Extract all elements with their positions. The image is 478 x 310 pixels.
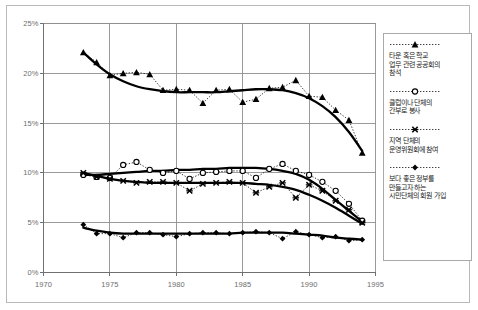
data-point-open-circle [307,172,312,177]
data-point-filled-triangle [359,150,366,156]
data-point-open-circle [214,169,219,174]
data-point-x-cross [279,180,286,185]
data-point-filled-diamond [120,235,126,241]
data-point-open-circle [121,162,126,167]
data-point-filled-triangle [279,84,286,90]
data-point-x-cross [253,190,260,195]
data-point-open-circle [267,166,272,171]
data-point-filled-diamond [266,230,272,236]
legend-marker-filled-triangle-icon [389,40,466,49]
data-point-x-cross [213,180,220,185]
series-observed-dotted-line [83,52,362,153]
data-point-open-circle [280,161,285,166]
data-point-filled-triangle [173,86,180,92]
data-point-filled-triangle [133,69,140,75]
y-axis-tick-label: 0% [6,268,39,277]
data-point-open-circle [200,170,205,175]
x-axis-tick-label: 1975 [90,280,130,289]
x-axis-tick-label: 1980 [156,280,196,289]
series-2 [80,170,365,225]
x-axis-tick-label: 1985 [223,280,263,289]
y-axis-tick-label: 15% [6,119,39,128]
data-point-filled-diamond [240,230,246,236]
legend-entry: 클럽이나 단체의 간부로 봉사 [389,87,466,116]
series-0 [80,49,366,156]
data-point-open-circle [134,159,139,164]
legend-marker-filled-diamond-icon [389,163,466,172]
data-point-x-cross [186,188,193,193]
legend-label: 지역 단체의 운영위원회에 참여 [389,137,466,154]
data-point-open-circle [174,168,179,173]
data-point-filled-diamond [227,231,233,237]
data-point-filled-diamond [359,237,365,243]
series-trend-line [83,52,362,151]
x-axis-tick-label: 1990 [289,280,329,289]
data-point-filled-diamond [306,232,312,238]
x-axis-tick-label: 1970 [24,280,64,289]
data-point-filled-diamond [187,231,193,237]
data-point-open-circle [333,188,338,193]
series-trend-line [83,168,362,222]
legend-label: 클럽이나 단체의 간부로 봉사 [389,99,466,116]
data-point-open-circle [160,170,165,175]
data-point-filled-triangle [266,85,273,91]
y-axis-tick-label: 5% [6,218,39,227]
data-point-open-circle [147,167,152,172]
data-point-x-cross [120,178,127,183]
chart-figure: 0%5%10%15%20%25%197019751980198519901995… [0,0,478,310]
y-axis-tick-label: 10% [6,168,39,177]
legend-marker-open-circle-icon [389,87,466,96]
data-point-filled-triangle [346,117,353,123]
data-point-x-cross [293,195,300,200]
y-axis-tick-label: 20% [6,69,39,78]
data-point-filled-triangle [239,99,246,105]
data-point-open-circle [227,168,232,173]
x-axis-tick-label: 1995 [356,280,396,289]
legend-label: 타운 혹은 학교 업무 관련 공공회의 참석 [389,52,466,78]
legend-entry: 타운 혹은 학교 업무 관련 공공회의 참석 [389,40,466,78]
data-point-open-circle [253,175,258,180]
data-point-open-circle [320,179,325,184]
data-point-open-circle [240,168,245,173]
data-point-filled-triangle [80,49,87,55]
legend-marker-x-cross-icon [389,125,466,134]
legend-entry: 보다 좋은 정부를 만들고자 하는 시민단체의 회원 가입 [389,163,466,201]
data-point-filled-triangle [253,96,260,102]
series-3 [80,222,365,244]
legend-label: 보다 좋은 정부를 만들고자 하는 시민단체의 회원 가입 [389,175,466,201]
chart-legend: 타운 혹은 학교 업무 관련 공공회의 참석클럽이나 단체의 간부로 봉사지역 … [383,33,472,261]
data-point-open-circle [187,176,192,181]
data-point-open-circle [293,168,298,173]
data-point-filled-triangle [292,77,299,83]
data-point-filled-triangle [226,86,233,92]
y-axis-tick-label: 25% [6,19,39,28]
data-point-filled-diamond [280,236,286,242]
legend-entry: 지역 단체의 운영위원회에 참여 [389,125,466,154]
data-point-filled-triangle [332,107,339,113]
data-point-open-circle [346,201,351,206]
